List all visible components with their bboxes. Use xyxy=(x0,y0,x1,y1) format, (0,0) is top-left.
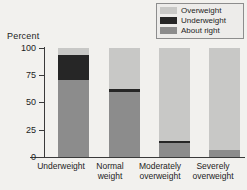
legend-label-underweight: Underweight xyxy=(181,16,226,25)
y-tick-75 xyxy=(39,75,44,76)
chart-legend: Overweight Underweight About right xyxy=(156,3,244,39)
bar-segment-about-right xyxy=(209,150,240,157)
plot-area xyxy=(45,48,243,157)
bar-segment-about-right xyxy=(58,80,89,157)
y-tick-label-0: 0 xyxy=(10,152,36,162)
y-tick-100 xyxy=(39,48,44,49)
legend-item-underweight: Underweight xyxy=(160,16,240,25)
x-label-line: Underweight xyxy=(33,162,89,172)
bar-underweight xyxy=(58,48,89,157)
y-axis-title: Percent xyxy=(7,31,39,41)
y-tick-label-75: 75 xyxy=(10,70,36,80)
bar-segment-underweight xyxy=(58,55,89,80)
y-tick-label-25: 25 xyxy=(10,125,36,135)
bar-segment-overweight xyxy=(159,48,190,141)
y-tick-50 xyxy=(39,102,44,103)
bar-normal-weight xyxy=(109,48,140,157)
legend-swatch-underweight xyxy=(160,17,177,24)
legend-swatch-overweight xyxy=(160,7,177,14)
x-label-line: overweight xyxy=(132,172,188,182)
y-tick-25 xyxy=(39,130,44,131)
x-axis-label-underweight: Underweight xyxy=(33,162,89,172)
bar-segment-about-right xyxy=(159,143,190,157)
x-label-line: weight xyxy=(82,172,138,182)
x-axis-line xyxy=(30,157,245,158)
legend-label-overweight: Overweight xyxy=(181,6,221,15)
bar-segment-about-right xyxy=(109,92,140,157)
legend-label-about-right: About right xyxy=(181,26,220,35)
x-axis-label-severely-overweight: Severely overweight xyxy=(185,162,241,181)
x-label-line: overweight xyxy=(185,172,241,182)
legend-item-about-right: About right xyxy=(160,26,240,35)
legend-item-overweight: Overweight xyxy=(160,6,240,15)
legend-swatch-about-right xyxy=(160,27,177,34)
x-axis-label-normal-weight: Normal weight xyxy=(82,162,138,181)
y-tick-0 xyxy=(39,157,44,158)
y-tick-label-50: 50 xyxy=(10,97,36,107)
bar-moderately-overweight xyxy=(159,48,190,157)
x-axis-label-moderately-overweight: Moderately overweight xyxy=(132,162,188,181)
bar-severely-overweight xyxy=(209,48,240,157)
y-tick-label-100: 100 xyxy=(10,43,36,53)
bar-segment-overweight xyxy=(209,48,240,150)
stacked-bar-chart: Overweight Underweight About right Perce… xyxy=(0,0,247,190)
bar-segment-overweight xyxy=(109,48,140,89)
